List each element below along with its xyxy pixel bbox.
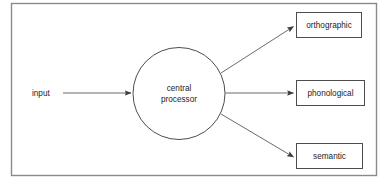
diagram-canvas: input central processor orthographic pho… [0,0,388,181]
central-processor-node [133,48,225,140]
input-label: input [32,89,50,98]
output-label-phonological: phonological [308,89,354,98]
central-processor-label-line1: central [167,84,192,93]
output-label-semantic: semantic [313,152,346,161]
flow-diagram: input central processor orthographic pho… [0,0,388,181]
output-label-orthographic: orthographic [306,21,352,30]
central-processor-label-line2: processor [161,95,197,104]
